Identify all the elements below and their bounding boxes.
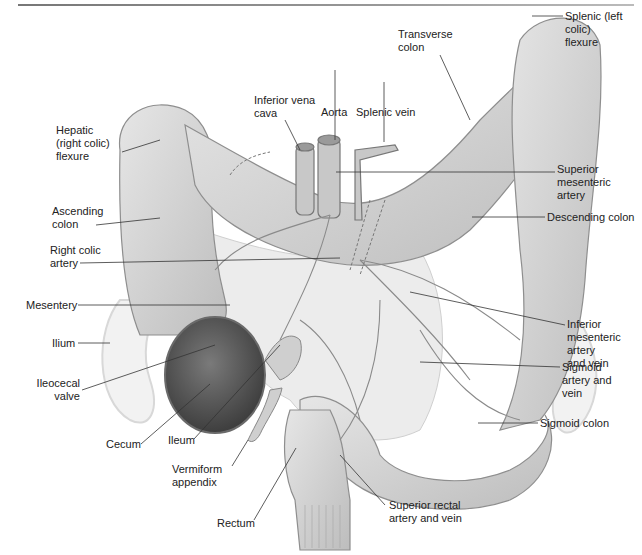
label-ileum: Ileum [168, 434, 195, 447]
label-transverse-colon: Transverse colon [398, 28, 453, 54]
label-vermiform-appendix: Vermiform appendix [172, 463, 222, 489]
label-ilium: Ilium [52, 337, 75, 350]
colon-illustration [0, 0, 642, 555]
label-rectum: Rectum [217, 517, 255, 530]
label-cecum: Cecum [106, 438, 141, 451]
label-descending-colon: Descending colon [547, 211, 634, 224]
label-ileocecal-valve: Ileocecal valve [20, 377, 80, 403]
label-sigmoid-colon: Sigmoid colon [540, 417, 609, 430]
label-sigmoid-artery: Sigmoid artery and vein [562, 361, 612, 400]
label-splenic-flexure: Splenic (left colic) flexure [565, 10, 642, 49]
label-right-colic-artery: Right colic artery [50, 244, 101, 270]
label-splenic-vein: Splenic vein [356, 106, 415, 119]
label-superior-mesenteric-artery: Superior mesenteric artery [557, 163, 611, 202]
label-superior-rectal: Superior rectal artery and vein [389, 499, 462, 525]
label-ascending-colon: Ascending colon [52, 205, 103, 231]
label-inferior-vena-cava: Inferior vena cava [254, 94, 315, 120]
label-hepatic-flexure: Hepatic (right colic) flexure [56, 124, 110, 163]
label-mesentery: Mesentery [26, 299, 77, 312]
label-aorta: Aorta [321, 106, 347, 119]
